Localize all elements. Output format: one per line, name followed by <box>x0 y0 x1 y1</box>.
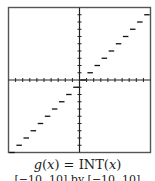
rhs-close-paren: ) <box>116 157 121 172</box>
function-name: g <box>34 157 42 172</box>
caption-equals: = <box>59 157 78 172</box>
viewing-window-label: [−10, 10] by [−10, 10] <box>0 173 155 181</box>
function-caption: g(x) = INT(x) <box>0 157 155 172</box>
graph-viewing-window <box>0 0 155 155</box>
rhs-function: INT <box>79 157 104 172</box>
step-function-figure: g(x) = INT(x) [−10, 10] by [−10, 10] <box>0 0 155 181</box>
